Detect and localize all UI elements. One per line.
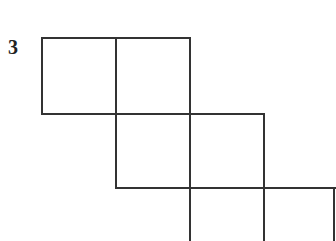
staircase-squares-diagram: [0, 0, 336, 241]
square-r2-c2: [190, 114, 264, 188]
square-r2-c1: [116, 114, 190, 188]
square-r1-c2: [116, 38, 190, 114]
square-r1-c1: [42, 38, 116, 114]
